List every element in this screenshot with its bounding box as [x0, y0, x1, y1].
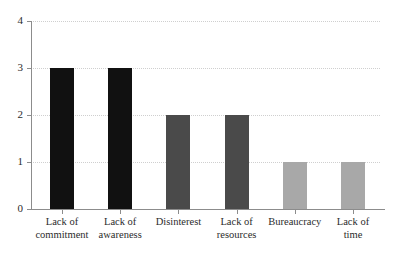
bar-rect [341, 162, 365, 209]
x-axis-line [31, 209, 385, 210]
y-tick-mark [27, 209, 31, 210]
bar [283, 21, 307, 209]
bar [50, 21, 74, 209]
x-tick-label: Bureaucracy [266, 216, 324, 229]
bar-series [0, 21, 401, 209]
bar-rect [50, 68, 74, 209]
x-tick-mark [178, 209, 179, 214]
x-tick-label: Lack of commitment [33, 216, 91, 241]
bar [108, 21, 132, 209]
bar [225, 21, 249, 209]
bar-chart: 01234 Lack of commitmentLack of awarenes… [0, 0, 401, 254]
x-tick-mark [120, 209, 121, 214]
x-tick-mark [237, 209, 238, 214]
x-tick-mark [353, 209, 354, 214]
bar [341, 21, 365, 209]
bar-rect [166, 115, 190, 209]
x-tick-label: Lack of resources [208, 216, 266, 241]
bar-rect [225, 115, 249, 209]
bar-rect [283, 162, 307, 209]
x-tick-label: Disinterest [149, 216, 207, 229]
x-tick-label: Lack of awareness [91, 216, 149, 241]
x-tick-mark [62, 209, 63, 214]
x-tick-mark [295, 209, 296, 214]
x-tick-label: Lack of time [324, 216, 382, 241]
bar [166, 21, 190, 209]
bar-rect [108, 68, 132, 209]
